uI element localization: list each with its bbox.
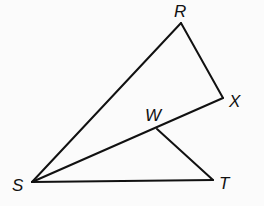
segment-SR [32, 23, 181, 182]
segment-RX [181, 23, 223, 98]
segment-ST [32, 180, 213, 182]
label-T: T [219, 174, 231, 193]
segment-XS [32, 98, 223, 182]
segment-WT [157, 129, 213, 180]
geometry-diagram: R X W S T [0, 0, 264, 206]
label-S: S [12, 176, 24, 195]
label-R: R [174, 2, 186, 21]
label-X: X [228, 92, 241, 111]
label-W: W [145, 106, 163, 125]
triangle-figure: R X W S T [0, 0, 264, 206]
